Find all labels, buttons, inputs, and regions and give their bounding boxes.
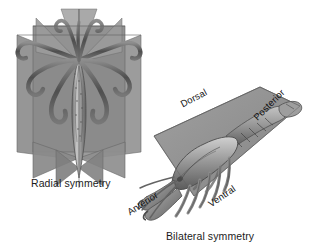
radial-symmetry-caption: Radial symmetry xyxy=(31,177,111,189)
bilateral-symmetry-figure xyxy=(138,78,314,228)
bilateral-symmetry-caption: Bilateral symmetry xyxy=(166,230,254,242)
radial-symmetry-illustration xyxy=(0,0,160,200)
bilateral-symmetry-illustration xyxy=(138,78,314,228)
radial-symmetry-figure: Radial symmetry xyxy=(0,0,160,200)
